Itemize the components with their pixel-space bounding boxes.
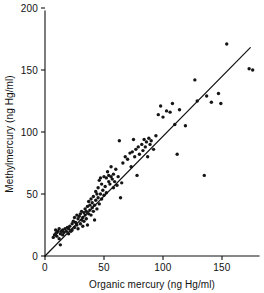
- data-point: [92, 210, 95, 213]
- data-point: [99, 192, 102, 195]
- data-point: [152, 148, 155, 151]
- data-point: [95, 192, 98, 195]
- data-point: [96, 196, 99, 199]
- data-point: [175, 153, 178, 156]
- data-point: [116, 175, 119, 178]
- data-point: [178, 108, 181, 111]
- data-point: [109, 165, 112, 168]
- data-point: [85, 217, 88, 220]
- x-tick-label: 50: [98, 262, 110, 273]
- data-point: [96, 186, 99, 189]
- data-point: [165, 109, 168, 112]
- data-point: [124, 155, 127, 158]
- data-point: [88, 203, 91, 206]
- y-tick-label: 100: [21, 127, 39, 138]
- x-axis-title: Organic mercury (ng Hg/ml): [89, 279, 215, 290]
- data-point: [150, 139, 153, 142]
- data-point: [76, 227, 79, 230]
- data-point: [138, 153, 141, 156]
- data-point: [95, 207, 98, 210]
- data-point: [135, 174, 138, 177]
- regression-line: [45, 48, 250, 256]
- data-point: [105, 176, 108, 179]
- data-point: [100, 182, 103, 185]
- data-point: [247, 67, 250, 70]
- data-point: [91, 201, 94, 204]
- data-point: [154, 134, 157, 137]
- data-point: [68, 225, 71, 228]
- data-point: [57, 227, 60, 230]
- data-point: [59, 243, 62, 246]
- data-point: [93, 218, 96, 221]
- data-point: [217, 92, 220, 95]
- data-point: [94, 199, 97, 202]
- data-point: [142, 138, 145, 141]
- y-tick-label: 50: [26, 189, 38, 200]
- data-point: [168, 110, 171, 113]
- data-point: [112, 172, 115, 175]
- data-point: [146, 155, 149, 158]
- data-point: [210, 101, 213, 104]
- x-axis-ticks: 050100150: [42, 256, 231, 273]
- scatter-plot: 050100150200 050100150 Organic mercury (…: [0, 0, 264, 293]
- data-point: [147, 137, 150, 140]
- data-point: [144, 145, 147, 148]
- data-point: [86, 223, 89, 226]
- data-point: [55, 234, 58, 237]
- figure-container: 050100150200 050100150 Organic mercury (…: [0, 0, 264, 293]
- data-point: [126, 158, 129, 161]
- data-point: [137, 145, 140, 148]
- data-point: [114, 168, 117, 171]
- data-point: [89, 213, 92, 216]
- data-point: [120, 181, 123, 184]
- y-axis-ticks: 050100150200: [21, 3, 45, 262]
- data-point: [134, 148, 137, 151]
- data-point: [121, 161, 124, 164]
- data-point: [184, 124, 187, 127]
- data-point: [219, 102, 222, 105]
- data-point: [79, 222, 82, 225]
- data-point: [99, 176, 102, 179]
- data-point: [145, 140, 148, 143]
- data-point: [132, 138, 135, 141]
- data-point: [73, 216, 76, 219]
- data-point: [203, 174, 206, 177]
- data-point: [140, 143, 143, 146]
- data-point: [161, 115, 164, 118]
- data-point: [113, 180, 116, 183]
- x-tick-label: 150: [213, 262, 231, 273]
- data-point: [92, 195, 95, 198]
- data-point: [81, 225, 84, 228]
- data-point: [141, 149, 144, 152]
- data-point: [111, 177, 114, 180]
- data-point: [251, 68, 254, 71]
- data-point: [157, 113, 160, 116]
- data-point: [108, 182, 111, 185]
- data-point: [101, 189, 104, 192]
- x-tick-label: 0: [42, 262, 48, 273]
- y-tick-label: 200: [21, 3, 39, 14]
- data-point: [148, 143, 151, 146]
- data-point: [171, 102, 174, 105]
- data-point: [106, 170, 109, 173]
- y-tick-label: 0: [32, 251, 38, 262]
- data-point: [89, 197, 92, 200]
- data-point: [119, 196, 122, 199]
- data-point: [131, 150, 134, 153]
- data-point: [133, 155, 136, 158]
- y-axis-title: Methylmercury (ng Hg/ml): [4, 75, 15, 192]
- data-point: [103, 185, 106, 188]
- data-point: [87, 200, 90, 203]
- data-point: [205, 94, 208, 97]
- data-point: [159, 104, 162, 107]
- data-point: [82, 220, 85, 223]
- x-tick-label: 100: [154, 262, 172, 273]
- y-tick-label: 150: [21, 65, 39, 76]
- data-point: [193, 78, 196, 81]
- data-point: [118, 139, 121, 142]
- data-points-layer: [52, 42, 255, 246]
- data-point: [225, 42, 228, 45]
